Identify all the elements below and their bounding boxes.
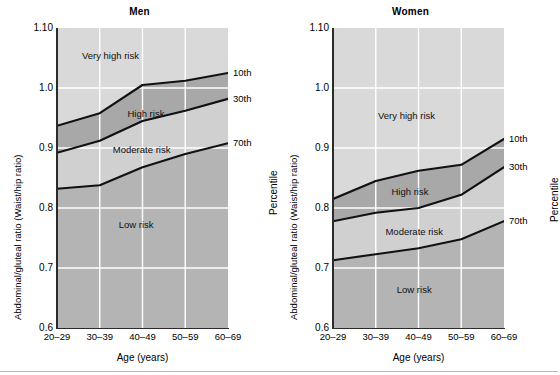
region-label: High risk — [127, 108, 164, 119]
y-tick-label: 0.8 — [315, 203, 329, 213]
x-tick-label: 60–69 — [491, 332, 517, 342]
plot-area-men: 1.101.00.90.80.70.620–2930–3940–4950–596… — [57, 28, 228, 328]
percentile-annotation-10th: 10th — [509, 134, 528, 144]
percentile-annotation-30th: 30th — [509, 162, 528, 172]
x-tick-label: 40–49 — [405, 332, 431, 342]
region-label: Moderate risk — [113, 144, 171, 155]
panel-men: Men Abdominal/gluteal ratio (Waist/hip r… — [0, 0, 279, 375]
region-label: Low risk — [397, 284, 432, 295]
x-tick-label: 40–49 — [129, 332, 155, 342]
x-axis-line-men — [56, 328, 229, 330]
region-label: Moderate risk — [385, 225, 443, 236]
y-tick-label: 0.7 — [39, 263, 53, 273]
y-tick-label: 0.8 — [39, 203, 53, 213]
x-tick-label: 30–39 — [87, 332, 113, 342]
right-axis-label-women: Percentile — [549, 178, 560, 222]
x-tick-label: 50–59 — [448, 332, 474, 342]
chart-svg-men — [57, 28, 228, 328]
y-tick-label: 1.10 — [310, 23, 329, 33]
y-axis-label-women: Abdominal/gluteal ratio (Waist/hip ratio… — [288, 155, 299, 320]
percentile-annotation-70th: 70th — [233, 138, 252, 148]
region-label: Very high risk — [378, 110, 435, 121]
percentile-annotation-30th: 30th — [233, 94, 252, 104]
region-label: Very high risk — [82, 50, 139, 61]
x-tick-label: 20–29 — [44, 332, 70, 342]
percentile-annotation-10th: 10th — [233, 68, 252, 78]
y-tick-label: 1.10 — [34, 23, 53, 33]
right-axis-label-men: Percentile — [268, 171, 279, 215]
page-divider-rule — [0, 371, 558, 372]
region-label: High risk — [391, 186, 428, 197]
y-tick-label: 1.0 — [315, 83, 329, 93]
x-axis-line-women — [332, 328, 505, 330]
x-tick-label: 60–69 — [215, 332, 241, 342]
x-tick-label: 50–59 — [172, 332, 198, 342]
y-tick-label: 1.0 — [39, 83, 53, 93]
percentile-annotation-70th: 70th — [509, 216, 528, 226]
y-axis-line-men — [56, 28, 58, 328]
x-tick-label: 30–39 — [363, 332, 389, 342]
x-axis-label-women: Age (years) — [333, 352, 504, 363]
y-tick-label: 0.7 — [315, 263, 329, 273]
x-axis-label-men: Age (years) — [57, 352, 228, 363]
region-label: Low risk — [119, 219, 154, 230]
panel-title-men: Men — [0, 6, 279, 17]
y-axis-line-women — [332, 28, 334, 328]
plot-area-women: 1.101.00.90.80.70.620–2930–3940–4950–596… — [333, 28, 504, 328]
y-tick-label: 0.9 — [315, 143, 329, 153]
panel-women: Women Abdominal/gluteal ratio (Waist/hip… — [279, 0, 558, 375]
panel-title-women: Women — [271, 6, 550, 17]
x-tick-label: 20–29 — [320, 332, 346, 342]
y-axis-label-men: Abdominal/gluteal ratio (Waist/hip ratio… — [12, 155, 23, 320]
y-tick-label: 0.9 — [39, 143, 53, 153]
